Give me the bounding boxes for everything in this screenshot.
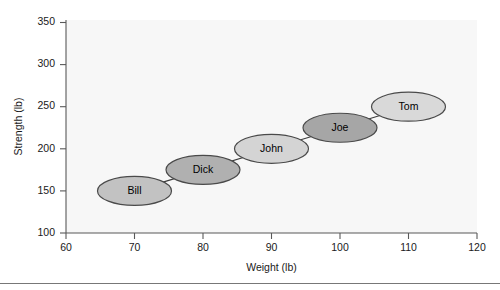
data-point-label-tom: Tom: [399, 100, 419, 112]
data-point-label-john: John: [260, 142, 283, 154]
scatter-chart-svg: 350 300 250 200 150 100 60 70 80 90 100 …: [0, 0, 500, 290]
x-tick-label-60: 60: [60, 241, 72, 253]
x-tick-label-80: 80: [197, 241, 209, 253]
y-tick-label-350: 350: [37, 15, 55, 27]
x-tick-label-100: 100: [331, 241, 349, 253]
y-tick-label-300: 300: [37, 57, 55, 69]
chart-figure: 350 300 250 200 150 100 60 70 80 90 100 …: [0, 0, 500, 290]
data-point-joe[interactable]: Joe: [303, 113, 377, 142]
x-axis-title: Weight (lb): [246, 261, 297, 273]
y-tick-label-100: 100: [37, 226, 55, 238]
x-tick-label-110: 110: [400, 241, 417, 253]
y-axis-ticks: 350 300 250 200 150 100: [37, 15, 66, 238]
data-point-label-dick: Dick: [193, 163, 214, 175]
data-point-tom[interactable]: Tom: [372, 92, 446, 121]
y-axis-title: Strength (lb): [12, 98, 24, 156]
data-point-bill[interactable]: Bill: [98, 176, 172, 205]
y-tick-label-200: 200: [37, 142, 55, 154]
x-tick-label-70: 70: [129, 241, 141, 253]
x-axis-ticks: 60 70 80 90 100 110 120: [60, 233, 486, 253]
x-tick-label-90: 90: [266, 241, 278, 253]
data-point-label-bill: Bill: [127, 184, 141, 196]
y-tick-label-250: 250: [37, 99, 55, 111]
y-tick-label-150: 150: [37, 184, 55, 196]
data-point-label-joe: Joe: [332, 121, 349, 133]
data-point-dick[interactable]: Dick: [166, 155, 240, 184]
data-point-john[interactable]: John: [235, 134, 309, 163]
x-tick-label-120: 120: [468, 241, 486, 253]
